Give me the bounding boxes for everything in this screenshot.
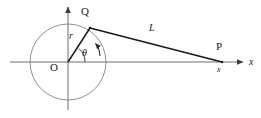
x-axis-label: x [249,57,253,67]
point-p-label: P [216,41,222,52]
geometry-diagram: O Q P r θ L x x [0,0,261,118]
point-q-marker [89,27,92,30]
origin-label: O [50,62,58,73]
rotation-arrow-icon [96,44,101,57]
p-coordinate-label: x [217,66,221,74]
diagram-canvas [0,0,261,118]
angle-theta-label: θ [82,48,87,58]
point-q-label: Q [81,6,89,17]
radius-label: r [69,31,73,41]
segment-l-line [90,28,222,62]
point-p-marker [221,61,224,64]
segment-l-label: L [149,23,155,33]
